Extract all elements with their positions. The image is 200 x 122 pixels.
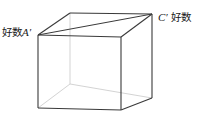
label-c-prime-cjk: 好数 [171, 11, 191, 23]
edge-bottom-left-slant-hidden [38, 84, 70, 108]
edge-back-top [70, 13, 152, 14]
cube-figure: 好数A′ C′ 好数 [0, 0, 200, 122]
edge-front-bottom [38, 108, 121, 110]
edge-right-side-bottom-slant [121, 98, 152, 110]
label-c-prime-point: C′ [158, 11, 168, 23]
label-a-prime-point: A′ [22, 26, 31, 38]
label-c-prime: C′ 好数 [158, 12, 191, 23]
edge-back-bottom-hidden [70, 84, 152, 98]
label-a-prime: 好数A′ [2, 27, 31, 38]
edge-top-face-diagonal [38, 14, 152, 35]
edge-top-right-slant [121, 14, 152, 37]
edge-front-top [38, 35, 121, 37]
label-a-prime-cjk: 好数 [2, 26, 22, 38]
